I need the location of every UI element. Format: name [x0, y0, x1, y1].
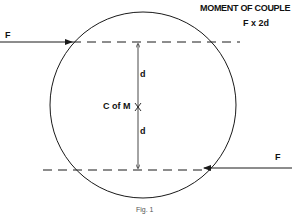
- formula: F x 2d: [243, 18, 269, 28]
- force-right-label: F: [275, 152, 281, 162]
- distance-lower-label: d: [140, 126, 146, 136]
- distance-upper-label: d: [140, 69, 146, 79]
- force-left-label: F: [5, 30, 11, 40]
- couple-diagram: [0, 0, 292, 214]
- center-of-mass-label: C of M: [103, 101, 131, 111]
- diagram-title: MOMENT OF COUPLE: [200, 3, 290, 13]
- figure-caption: Fig. 1: [136, 206, 154, 213]
